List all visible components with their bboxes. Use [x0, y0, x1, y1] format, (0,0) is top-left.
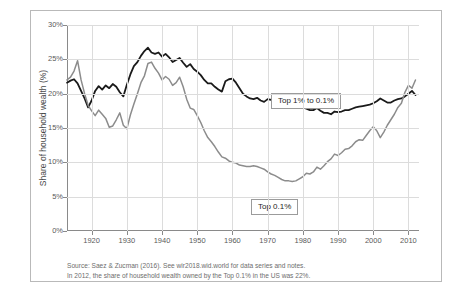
- gridline-vertical: [127, 25, 128, 231]
- chart-frame: Share of household wealth (%) Top 1% to …: [30, 10, 442, 282]
- x-axis-tick-label: 1920: [72, 237, 112, 245]
- source-note: Source: Saez & Zucman (2016). See wir201…: [67, 261, 427, 281]
- y-axis-tick-label: 25%: [23, 56, 63, 64]
- x-axis-tick-label: 1990: [318, 237, 358, 245]
- y-axis-tick-mark: [63, 162, 67, 163]
- y-axis-tick-mark: [63, 25, 67, 26]
- y-axis-tick-label: 0%: [23, 227, 63, 235]
- gridline-vertical: [92, 25, 93, 231]
- x-axis-tick-mark: [408, 231, 409, 235]
- source-note-line-1: Source: Saez & Zucman (2016). See wir201…: [67, 261, 427, 271]
- y-axis-tick-mark: [63, 231, 67, 232]
- gridline-vertical: [197, 25, 198, 231]
- x-axis-tick-label: 1970: [248, 237, 288, 245]
- x-axis-tick-label: 1960: [212, 237, 252, 245]
- x-axis-tick-mark: [232, 231, 233, 235]
- x-axis-tick-label: 1940: [142, 237, 182, 245]
- gridline-horizontal: [67, 197, 419, 198]
- x-axis-tick-label: 1950: [177, 237, 217, 245]
- y-axis-tick-label: 20%: [23, 90, 63, 98]
- y-axis-tick-label: 5%: [23, 193, 63, 201]
- x-axis-tick-mark: [338, 231, 339, 235]
- plot-wrapper: Top 1% to 0.1% Top 0.1% 0%5%10%15%20%25%…: [67, 25, 419, 231]
- y-axis-tick-mark: [63, 128, 67, 129]
- figure-root: Share of household wealth (%) Top 1% to …: [0, 0, 472, 304]
- gridline-horizontal: [67, 162, 419, 163]
- source-note-line-2: In 2012, the share of household wealth o…: [67, 271, 427, 281]
- gridline-horizontal: [67, 94, 419, 95]
- x-axis-tick-mark: [303, 231, 304, 235]
- gridline-vertical: [338, 25, 339, 231]
- x-axis-tick-mark: [92, 231, 93, 235]
- x-axis-tick-mark: [127, 231, 128, 235]
- series-line-top-1-to-0-1: [67, 48, 415, 115]
- gridline-vertical: [303, 25, 304, 231]
- gridline-horizontal: [67, 59, 419, 60]
- gridline-vertical: [408, 25, 409, 231]
- gridline-vertical: [373, 25, 374, 231]
- x-axis-tick-mark: [373, 231, 374, 235]
- callout-top-0-1: Top 0.1%: [251, 199, 298, 215]
- figure-caption: [30, 288, 442, 302]
- gridline-vertical: [162, 25, 163, 231]
- y-axis-tick-mark: [63, 59, 67, 60]
- series-line-top-0-1: [67, 61, 415, 182]
- x-axis-tick-mark: [268, 231, 269, 235]
- x-axis-tick-label: 1980: [283, 237, 323, 245]
- y-axis-tick-label: 30%: [23, 21, 63, 29]
- gridline-vertical: [268, 25, 269, 231]
- x-axis-tick-mark: [162, 231, 163, 235]
- y-axis-tick-mark: [63, 94, 67, 95]
- y-axis-tick-label: 10%: [23, 159, 63, 167]
- x-axis-tick-mark: [197, 231, 198, 235]
- gridline-horizontal: [67, 128, 419, 129]
- x-axis-tick-label: 1930: [107, 237, 147, 245]
- callout-top-1-to-0-1: Top 1% to 0.1%: [271, 93, 341, 109]
- y-axis-tick-label: 15%: [23, 124, 63, 132]
- x-axis-tick-label: 2000: [353, 237, 393, 245]
- x-axis-tick-label: 2010: [388, 237, 428, 245]
- y-axis-tick-mark: [63, 197, 67, 198]
- gridline-vertical: [232, 25, 233, 231]
- gridline-horizontal: [67, 25, 419, 26]
